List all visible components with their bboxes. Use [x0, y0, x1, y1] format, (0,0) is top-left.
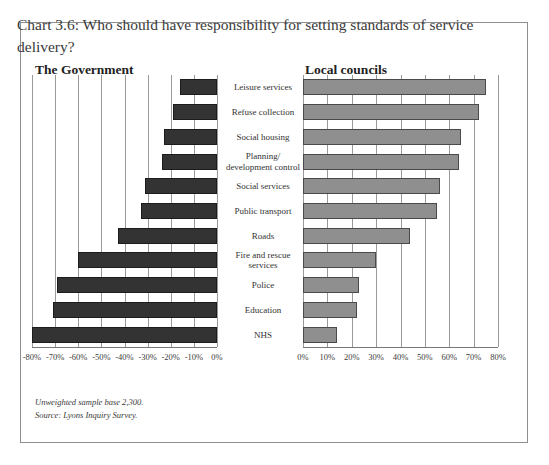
plot-area-government	[32, 75, 217, 347]
bar-government	[78, 252, 217, 268]
bar-row	[303, 327, 498, 343]
category-label: Public transport	[222, 198, 304, 224]
bar-row	[32, 178, 217, 194]
bar-government	[32, 327, 217, 343]
bar-row	[32, 129, 217, 145]
bar-row	[303, 277, 498, 293]
bar-row	[32, 228, 217, 244]
x-tick-label-local-councils: 40%	[393, 352, 409, 362]
footnote-source: Source: Lyons Inquiry Survey.	[35, 409, 143, 422]
bar-local-councils	[303, 302, 357, 318]
bar-local-councils	[303, 154, 459, 170]
bar-government	[141, 203, 217, 219]
x-tick-label-government: -30%	[138, 352, 156, 362]
bar-row	[32, 327, 217, 343]
x-tick-label-local-councils: 20%	[344, 352, 360, 362]
bar-row	[32, 79, 217, 95]
bar-government	[164, 129, 217, 145]
x-axis-ticks-government: -80%-70%-60%-50%-40%-30%-20%-10%0%	[32, 352, 217, 366]
bar-government	[180, 79, 217, 95]
x-tick-label-government: -80%	[23, 352, 41, 362]
x-axis-line-local-councils	[303, 347, 498, 348]
bar-local-councils	[303, 129, 461, 145]
bar-government	[162, 154, 218, 170]
x-tick-label-government: 0%	[211, 352, 222, 362]
bar-local-councils	[303, 178, 440, 194]
gridline-local-councils	[498, 75, 499, 347]
bar-row	[303, 154, 498, 170]
category-label: Social housing	[222, 124, 304, 150]
x-tick-label-local-councils: 10%	[320, 352, 336, 362]
category-label: Leisure services	[222, 74, 304, 100]
category-label: Police	[222, 272, 304, 298]
bar-local-councils	[303, 228, 410, 244]
bar-row	[32, 277, 217, 293]
footnote-sample-base: Unweighted sample base 2,300.	[35, 396, 143, 409]
bar-row	[303, 252, 498, 268]
x-tick-label-government: -50%	[92, 352, 110, 362]
bar-local-councils	[303, 252, 376, 268]
bar-row	[303, 79, 498, 95]
x-tick-label-local-councils: 0%	[297, 352, 308, 362]
bar-row	[32, 302, 217, 318]
category-label: Fire and rescue services	[222, 247, 304, 273]
bar-row	[303, 104, 498, 120]
bar-local-councils	[303, 79, 486, 95]
x-axis-line-government	[32, 347, 217, 348]
bar-local-councils	[303, 327, 337, 343]
bar-row	[32, 104, 217, 120]
category-label: NHS	[222, 322, 304, 348]
x-tick-label-local-councils: 60%	[441, 352, 457, 362]
bar-local-councils	[303, 203, 437, 219]
category-label: Refuse collection	[222, 99, 304, 125]
bar-row	[303, 203, 498, 219]
bar-government	[173, 104, 217, 120]
bar-row	[32, 252, 217, 268]
x-tick-label-local-councils: 30%	[368, 352, 384, 362]
bar-local-councils	[303, 277, 359, 293]
plot-area-local-councils	[303, 75, 498, 347]
x-tick-label-local-councils: 80%	[490, 352, 506, 362]
bar-government	[118, 228, 217, 244]
x-tick-label-local-councils: 50%	[417, 352, 433, 362]
footnote: Unweighted sample base 2,300. Source: Ly…	[35, 396, 143, 422]
x-tick-label-government: -10%	[185, 352, 203, 362]
bar-row	[32, 203, 217, 219]
category-label-column: Leisure servicesRefuse collectionSocial …	[222, 75, 304, 347]
bar-government	[57, 277, 217, 293]
gridline-government	[217, 75, 218, 347]
bar-government	[53, 302, 217, 318]
category-label: Planning/ development control	[222, 149, 304, 175]
bar-row	[303, 178, 498, 194]
category-label: Roads	[222, 223, 304, 249]
bar-row	[303, 302, 498, 318]
bar-local-councils	[303, 104, 479, 120]
category-label: Social services	[222, 173, 304, 199]
x-tick-label-local-councils: 70%	[466, 352, 482, 362]
x-tick-label-government: -40%	[115, 352, 133, 362]
x-tick-label-government: -20%	[162, 352, 180, 362]
x-axis-ticks-local-councils: 0%10%20%30%40%50%60%70%80%	[303, 352, 498, 366]
bar-row	[32, 154, 217, 170]
x-tick-label-government: -60%	[69, 352, 87, 362]
x-tick-label-government: -70%	[46, 352, 64, 362]
bar-row	[303, 228, 498, 244]
category-label: Education	[222, 297, 304, 323]
bar-row	[303, 129, 498, 145]
bar-government	[145, 178, 217, 194]
